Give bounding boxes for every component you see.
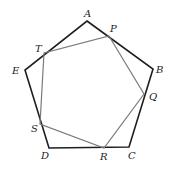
vertex-label-c: C <box>128 150 136 161</box>
outer-vertex-labels: A B C D E <box>11 8 163 161</box>
vertex-label-s: S <box>31 123 38 134</box>
vertex-label-b: B <box>155 64 163 75</box>
vertex-label-q: Q <box>149 91 157 102</box>
outer-pentagon-abcde <box>25 21 153 148</box>
vertex-label-a: A <box>83 8 91 19</box>
vertex-label-e: E <box>11 65 20 76</box>
inner-vertex-labels: P Q R S T <box>31 23 157 162</box>
inner-pentagon-pqrst <box>40 36 144 148</box>
vertex-label-t: T <box>35 43 43 54</box>
vertex-label-d: D <box>40 150 49 161</box>
pentagon-diagram: A B C D E P Q R S T <box>0 0 171 171</box>
vertex-label-p: P <box>109 23 117 34</box>
vertex-label-r: R <box>99 151 108 162</box>
